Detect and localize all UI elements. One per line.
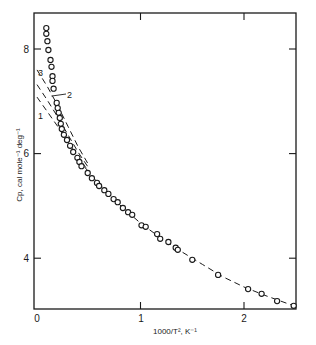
data-point: [130, 212, 135, 217]
cp-vs-inverse-t-squared-chart: 0 1 2 8 6 4 1000/T², K⁻¹ Cp, cal mole⁻¹ …: [0, 0, 316, 345]
plot-border: [34, 13, 296, 309]
data-point: [89, 176, 94, 181]
data-point: [291, 303, 296, 308]
axis-ticks: [34, 13, 296, 309]
data-point: [120, 205, 125, 210]
data-point: [56, 110, 61, 115]
data-point: [54, 100, 59, 105]
data-point: [143, 224, 148, 229]
data-point: [115, 200, 120, 205]
dashed-fit-curves: [37, 70, 294, 306]
data-points: [44, 26, 297, 309]
data-point: [106, 191, 111, 196]
y-tick-label-8: 8: [23, 44, 29, 55]
data-point: [46, 47, 51, 52]
data-point: [259, 291, 264, 296]
data-point: [51, 86, 56, 91]
data-point: [68, 143, 73, 148]
data-point: [45, 39, 50, 44]
data-point: [64, 137, 69, 142]
x-axis-label: 1000/T², K⁻¹: [153, 327, 197, 336]
data-point: [59, 126, 64, 131]
data-point: [50, 78, 55, 83]
data-point: [175, 247, 180, 252]
data-point: [216, 272, 221, 277]
curve-2-leader-line: [51, 94, 66, 96]
curve-label-1: 1: [38, 111, 43, 121]
data-point: [57, 115, 62, 120]
data-point: [190, 257, 195, 262]
x-tick-label-0: 0: [34, 313, 40, 324]
curve-label-2: 2: [67, 90, 72, 100]
data-point: [79, 164, 84, 169]
data-point: [246, 287, 251, 292]
x-tick-label-1: 1: [138, 313, 144, 324]
y-axis-label: Cp, cal mole⁻¹ deg⁻¹: [15, 128, 24, 202]
data-point: [44, 26, 49, 31]
data-point: [97, 183, 102, 188]
data-point: [44, 31, 49, 36]
data-point: [275, 299, 280, 304]
curve-label-3: 3: [38, 68, 43, 78]
data-point: [58, 121, 63, 126]
y-tick-label-6: 6: [23, 148, 29, 159]
data-point: [71, 149, 76, 154]
data-point: [166, 239, 171, 244]
data-point: [61, 132, 66, 137]
plot-frame: [34, 13, 296, 309]
data-point: [155, 232, 160, 237]
x-tick-label-2: 2: [241, 313, 247, 324]
axis-labels: 0 1 2 8 6 4 1000/T², K⁻¹ Cp, cal mole⁻¹ …: [15, 44, 247, 336]
y-tick-label-4: 4: [23, 253, 29, 264]
dashed-curve-fit-main: [78, 160, 293, 306]
data-point: [158, 236, 163, 241]
data-point: [49, 64, 54, 69]
data-point: [85, 170, 90, 175]
data-point: [48, 57, 53, 62]
